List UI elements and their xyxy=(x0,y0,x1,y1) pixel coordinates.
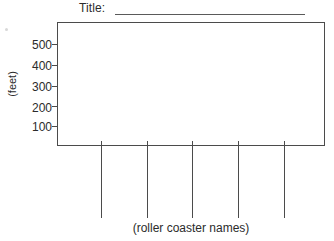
y-tick-label-200: 200 xyxy=(22,102,52,114)
category-divider-1 xyxy=(101,141,102,218)
scan-artifact-speck xyxy=(5,28,8,31)
chart-title-row: Title: xyxy=(79,1,309,17)
plot-area[interactable] xyxy=(57,22,325,146)
category-divider-2 xyxy=(147,141,148,218)
x-axis-caption: (roller coaster names) xyxy=(57,221,325,235)
category-divider-5 xyxy=(284,141,285,218)
category-divider-4 xyxy=(238,141,239,218)
y-axis-title: (feet) xyxy=(6,64,18,104)
y-tick-label-400: 400 xyxy=(22,60,52,72)
chart-title-label: Title: xyxy=(79,1,105,15)
y-tick-label-100: 100 xyxy=(22,121,52,133)
category-divider-3 xyxy=(192,141,193,218)
y-tick-label-300: 300 xyxy=(22,81,52,93)
worksheet-chart-canvas: Title: (feet) 500 400 300 200 100 (rolle… xyxy=(0,0,334,241)
chart-title-blank-line[interactable] xyxy=(115,14,305,15)
y-tick-label-500: 500 xyxy=(22,39,52,51)
